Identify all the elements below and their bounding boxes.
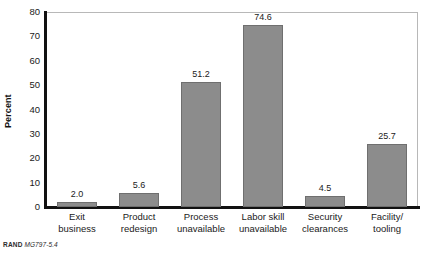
y-axis-title: Percent <box>1 66 15 156</box>
bar-group: 74.6 <box>243 12 283 207</box>
x-axis-category-line: unavailable <box>170 223 232 235</box>
x-axis-category-line: redesign <box>108 223 170 235</box>
x-axis-category-label: Exitbusiness <box>46 211 108 234</box>
x-axis-category-label: Processunavailable <box>170 211 232 234</box>
bar-value-label: 25.7 <box>378 132 396 141</box>
bar-value-label: 74.6 <box>254 13 272 22</box>
source-caption: RAND MG797-5.4 <box>3 241 58 249</box>
bar <box>305 196 345 207</box>
bar <box>181 82 221 207</box>
y-tick-label: 0 <box>16 202 40 212</box>
x-axis-category-line: Process <box>170 211 232 223</box>
x-axis-category-label: Facility/tooling <box>356 211 418 234</box>
x-axis-category-line: tooling <box>356 223 418 235</box>
bar <box>367 144 407 207</box>
x-axis-category-line: clearances <box>294 223 356 235</box>
bar-value-label: 2.0 <box>71 190 84 199</box>
source-brand: RAND <box>3 241 23 248</box>
y-tick-label: 70 <box>16 31 40 41</box>
y-tick-label: 50 <box>16 80 40 90</box>
x-axis-category-line: business <box>46 223 108 235</box>
bar-group: 51.2 <box>181 12 221 207</box>
y-tick-label: 20 <box>16 153 40 163</box>
x-axis-category-line: Facility/ <box>356 211 418 223</box>
bar-value-label: 5.6 <box>133 181 146 190</box>
bar-value-label: 4.5 <box>319 184 332 193</box>
x-axis-category-line: Labor skill <box>232 211 294 223</box>
bar-group: 5.6 <box>119 12 159 207</box>
x-axis-labels: ExitbusinessProductredesignProcessunavai… <box>46 211 418 243</box>
x-axis-category-line: Product <box>108 211 170 223</box>
bar-group: 25.7 <box>367 12 407 207</box>
y-tick-label: 40 <box>16 105 40 115</box>
source-figure-id: MG797-5.4 <box>24 241 57 248</box>
bar-value-label: 51.2 <box>192 70 210 79</box>
x-axis-category-line: unavailable <box>232 223 294 235</box>
y-tick-label: 60 <box>16 56 40 66</box>
bar-group: 2.0 <box>57 12 97 207</box>
bar <box>243 25 283 207</box>
bar-group: 4.5 <box>305 12 345 207</box>
bar-chart-figure: Percent 01020304050607080 2.05.651.274.6… <box>0 0 431 253</box>
bar <box>57 202 97 207</box>
x-axis-category-line: Security <box>294 211 356 223</box>
y-tick-label: 10 <box>16 178 40 188</box>
bar <box>119 193 159 207</box>
x-axis-category-label: Securityclearances <box>294 211 356 234</box>
x-axis-category-label: Productredesign <box>108 211 170 234</box>
x-axis-category-label: Labor skillunavailable <box>232 211 294 234</box>
x-axis-category-line: Exit <box>46 211 108 223</box>
y-tick-label: 30 <box>16 129 40 139</box>
y-tick-label: 80 <box>16 7 40 17</box>
bars-container: 2.05.651.274.64.525.7 <box>46 12 418 207</box>
